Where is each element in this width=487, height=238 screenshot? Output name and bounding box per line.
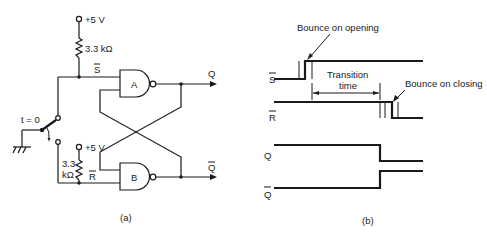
output-q-label: Q [208, 68, 215, 79]
node-s-label: S [94, 64, 100, 75]
caption-b: (b) [362, 215, 374, 226]
waveform-r-bar [274, 102, 423, 118]
qbar-arrow-icon [210, 174, 217, 180]
waveform-qbar [274, 171, 423, 188]
switch-label: t = 0 [21, 114, 40, 125]
switch-contact-upper [56, 116, 61, 121]
timing-diagram: S Bounce on opening Transition time R Bo… [264, 22, 483, 226]
output-qbar-label: Q [208, 162, 215, 173]
transition-label-2: time [339, 80, 357, 91]
gate-b-bubble [150, 174, 156, 180]
resistor-bottom-icon [76, 160, 82, 180]
q-arrow-icon [210, 81, 217, 87]
gate-a-label: A [131, 79, 138, 90]
annotation-bounce-closing: Bounce on closing [405, 78, 483, 89]
supply-label-top: +5 V [85, 14, 105, 25]
figure-canvas: +5 V 3.3 kΩ S t = 0 [0, 0, 487, 238]
annotation-bounce-opening: Bounce on opening [297, 22, 379, 33]
circuit-diagram: +5 V 3.3 kΩ S t = 0 [13, 14, 217, 223]
switch-blade-icon [42, 120, 56, 130]
signal-label-q: Q [264, 150, 271, 161]
gate-a-bubble [150, 81, 156, 87]
gate-b-label: B [131, 172, 137, 183]
resistor-top-icon [76, 38, 82, 58]
waveform-q [274, 145, 423, 161]
ground-icon [13, 147, 31, 153]
resistor-bottom-label-2: kΩ [62, 169, 74, 180]
closing-arrow-icon [393, 95, 399, 102]
signal-label-r: R [269, 112, 276, 123]
switch-contact-lower [56, 140, 61, 145]
transition-label-1: Transition [327, 69, 368, 80]
supply-terminal-top [76, 16, 81, 21]
caption-a: (a) [120, 212, 132, 223]
resistor-bottom-label-1: 3.3 [62, 158, 75, 169]
resistor-top-label: 3.3 kΩ [85, 43, 113, 54]
signal-label-qbar: Q [264, 189, 271, 200]
node-r-label: R [89, 171, 96, 182]
supply-terminal-bottom [76, 144, 81, 149]
